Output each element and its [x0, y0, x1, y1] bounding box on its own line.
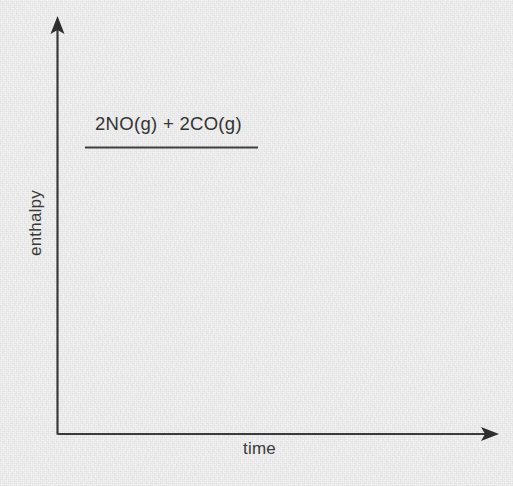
energy-diagram-figure: 2NO(g) + 2CO(g) enthalpy time — [0, 0, 513, 486]
energy-level-label-reactants: 2NO(g) + 2CO(g) — [95, 113, 242, 135]
x-axis-label: time — [243, 439, 276, 459]
y-axis-label: enthalpy — [0, 187, 84, 259]
